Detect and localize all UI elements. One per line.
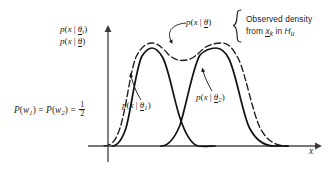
y-axis-label-secondary: p(x|θ) — [60, 36, 85, 47]
observed-density-note: Observed density from xk in Hu — [246, 13, 312, 37]
component-2-callout-arrow — [203, 71, 212, 91]
component-1-label: p(x|θ1) — [122, 100, 151, 111]
fraction-denominator: 2 — [79, 110, 85, 118]
mixture-density-figure: p(x|θi) p(x|θ) p(x|θ) p(x|θ1) p(x|θ2) P(… — [0, 0, 332, 170]
component-2-label: p(x|θ2) — [196, 92, 225, 103]
prior-probability-equation: P(w1) = P(w2) = 1 2 — [14, 101, 85, 119]
one-half-fraction: 1 2 — [79, 101, 85, 119]
x-axis-label: x — [309, 146, 313, 157]
observed-density-line-2: from xk in Hu — [246, 25, 312, 37]
mixture-callout-arrow — [169, 23, 186, 41]
y-axis-label-primary: p(x|θi) — [60, 24, 87, 35]
observed-density-line-1: Observed density — [246, 14, 312, 24]
mixture-density-label: p(x|θ) — [186, 17, 211, 28]
brace-icon — [234, 10, 242, 42]
